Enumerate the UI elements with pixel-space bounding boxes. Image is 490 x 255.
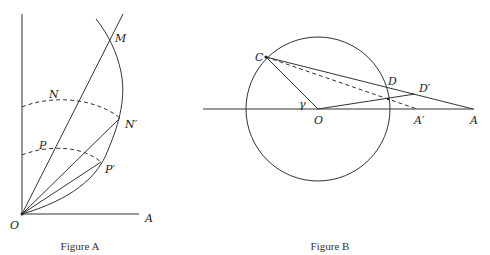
label-a: A — [144, 212, 153, 225]
line-od-prime — [318, 94, 415, 109]
dashed-arc-n — [22, 100, 120, 118]
label-o: O — [10, 219, 19, 232]
label-n-prime: N′ — [124, 118, 138, 131]
label-n: N — [48, 88, 59, 101]
label-d: D — [387, 75, 397, 88]
label-c: C — [255, 51, 264, 64]
label-a-prime: A′ — [413, 114, 425, 127]
point-o — [21, 213, 24, 216]
diagram-canvas: M N N′ P P′ O A Figure A C D D′ O A′ A γ… — [0, 0, 490, 255]
dashed-arc-p — [22, 148, 101, 162]
label-gamma: γ — [299, 98, 306, 111]
line-op-prime — [22, 162, 101, 214]
label-m: M — [114, 32, 127, 45]
caption-figure-b: Figure B — [311, 240, 350, 252]
label-p: P — [38, 139, 47, 152]
label-a-b: A — [469, 114, 478, 127]
label-o-b: O — [314, 114, 323, 127]
label-p-prime: P′ — [104, 163, 115, 176]
line-om — [22, 14, 123, 214]
figure-b: C D D′ O A′ A γ Figure B — [203, 37, 478, 252]
point-intersection — [387, 98, 389, 100]
label-d-prime: D′ — [418, 82, 431, 95]
figure-a: M N N′ P P′ O A Figure A — [10, 14, 153, 252]
line-oc — [266, 57, 318, 109]
caption-figure-a: Figure A — [61, 240, 100, 252]
point-c — [264, 55, 267, 58]
